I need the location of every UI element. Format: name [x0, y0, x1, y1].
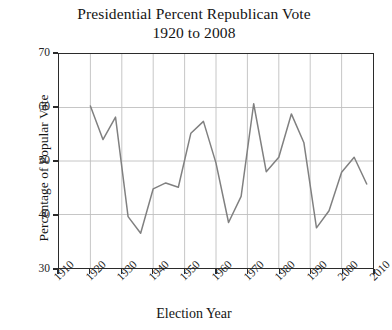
plot-area	[58, 53, 374, 269]
x-axis-tick-mark	[57, 269, 58, 274]
x-axis-tick-mark	[342, 269, 343, 274]
y-axis-label: Percentage of Popular Vote	[36, 58, 52, 278]
x-axis-tick-mark	[89, 269, 90, 274]
x-axis-tick-mark	[121, 269, 122, 274]
x-axis-tick-mark	[215, 269, 216, 274]
page-title: Presidential Percent Republican Vote 192…	[0, 4, 388, 42]
x-axis-tick-mark	[184, 269, 185, 274]
y-axis-tick-label: 70	[14, 47, 50, 58]
x-axis-tick-mark	[310, 269, 311, 274]
x-axis-tick-mark	[373, 269, 374, 274]
chart-title-line1: Presidential Percent Republican Vote	[77, 5, 310, 22]
x-axis-tick-mark	[152, 269, 153, 274]
x-axis-tick-mark	[279, 269, 280, 274]
x-axis-tick-mark	[247, 269, 248, 274]
x-axis-label: Election Year	[0, 306, 388, 322]
data-series-line	[90, 104, 366, 233]
line-chart-svg	[59, 54, 373, 268]
chart-title-line2: 1920 to 2008	[0, 23, 388, 42]
